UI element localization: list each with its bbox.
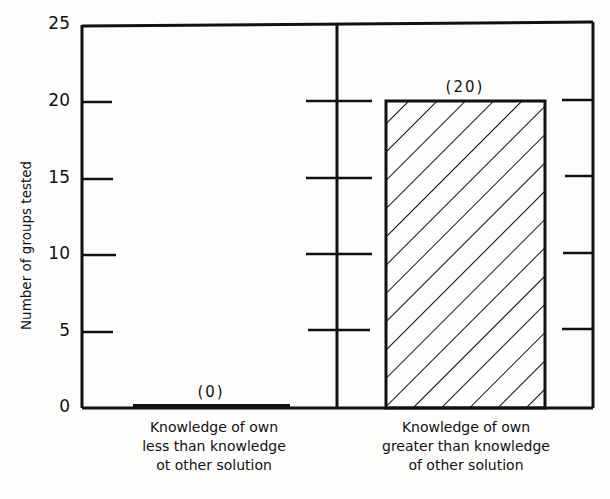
data-label-less-than: (0): [171, 383, 251, 401]
category-line: greater than knowledge: [356, 437, 576, 456]
y-tick-10: 10: [40, 243, 70, 263]
y-tick-0: 0: [40, 396, 70, 416]
y-tick-25: 25: [40, 13, 70, 33]
divider-ticks: [306, 101, 372, 330]
data-label-greater-than: (20): [425, 78, 505, 96]
category-line: ot other solution: [104, 456, 324, 475]
category-label-greater-than: Knowledge of own greater than knowledge …: [356, 418, 576, 475]
y-tick-15: 15: [40, 167, 70, 187]
left-ticks: [82, 102, 116, 332]
bar-less-than: [133, 404, 290, 408]
right-ticks: [562, 100, 593, 329]
y-axis-label: Number of groups tested: [18, 161, 34, 330]
category-line: Knowledge of own: [356, 418, 576, 437]
category-line: Knowledge of own: [104, 418, 324, 437]
category-line: of other solution: [356, 456, 576, 475]
category-label-less-than: Knowledge of own less than knowledge ot …: [104, 418, 324, 475]
y-tick-5: 5: [40, 320, 70, 340]
bar-greater-than: [386, 101, 545, 408]
category-line: less than knowledge: [104, 437, 324, 456]
y-tick-20: 20: [40, 90, 70, 110]
